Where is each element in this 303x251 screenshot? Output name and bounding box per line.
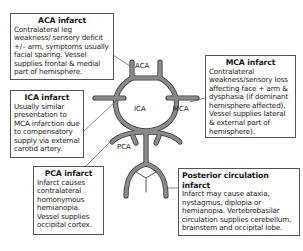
- ica-infarct-box: ICA infarct Usually similar presentation…: [10, 90, 84, 158]
- posterior-circulation-infarct-text: Infarct may cause ataxia, nystagmus, dip…: [182, 190, 296, 233]
- aca-infarct-text: Contralateral leg weakness/ sensory defi…: [14, 26, 110, 78]
- aca-infarct-box: ACA infarct Contralateral leg weakness/ …: [10, 13, 114, 80]
- posterior-circulation-infarct-box: Posterior circulation infarct Infarct ma…: [178, 168, 300, 236]
- pca-infarct-text: Infarct causes contralateral homonymous …: [37, 179, 100, 231]
- ica-infarct-text: Usually similar presentation to MCA infa…: [14, 103, 80, 155]
- posterior-circulation-infarct-title: Posterior circulation infarct: [182, 171, 296, 190]
- ica-label: ICA: [134, 105, 146, 113]
- pca-label: PCA: [117, 143, 131, 151]
- mca-label: MCA: [173, 105, 189, 113]
- mca-infarct-box: MCA infarct Contralateral weakness/senso…: [205, 55, 296, 138]
- pca-infarct-box: PCA infarct Infarct causes contralateral…: [33, 166, 104, 235]
- mca-infarct-text: Contralateral weakness/sensory loss affe…: [209, 68, 292, 137]
- aca-label: ACA: [135, 62, 150, 70]
